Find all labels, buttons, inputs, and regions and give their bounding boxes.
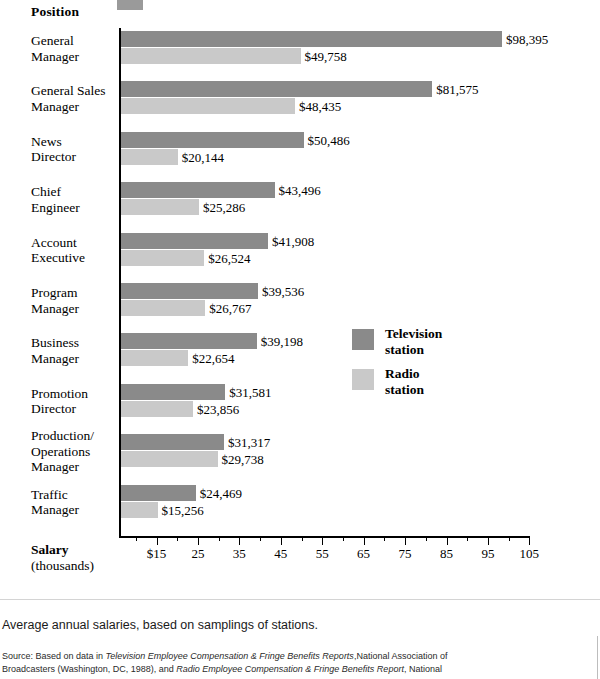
salary-axis-title: Salary (thousands) bbox=[31, 542, 94, 573]
bar-tv-0 bbox=[121, 31, 502, 47]
bar-radio-1 bbox=[121, 98, 295, 114]
x-tick-label-15: $15 bbox=[147, 546, 167, 562]
figure-caption: Average annual salaries, based on sampli… bbox=[2, 618, 318, 632]
bar-radio-3 bbox=[121, 199, 199, 215]
legend-label-television: Television station bbox=[385, 326, 442, 357]
category-label-8: Production/ Operations Manager bbox=[31, 428, 94, 475]
x-tick-minor-90 bbox=[467, 536, 468, 541]
x-tick-minor-80 bbox=[426, 536, 427, 541]
category-label-7: Promotion Director bbox=[31, 386, 88, 417]
x-tick-label-35: 35 bbox=[233, 546, 246, 562]
bar-radio-4 bbox=[121, 250, 204, 266]
x-tick-minor-100 bbox=[509, 536, 510, 541]
footer-divider bbox=[0, 599, 600, 600]
bar-value-tv-1: $81,575 bbox=[436, 82, 478, 98]
x-tick-minor-20 bbox=[177, 536, 178, 541]
x-axis-line bbox=[119, 536, 530, 538]
bar-value-radio-3: $25,286 bbox=[203, 200, 245, 216]
x-tick-minor-50 bbox=[302, 536, 303, 541]
legend-label-radio: Radio station bbox=[385, 366, 424, 397]
bar-value-tv-6: $39,198 bbox=[261, 334, 303, 350]
bar-value-tv-5: $39,536 bbox=[262, 284, 304, 300]
bar-value-tv-7: $31,581 bbox=[229, 385, 271, 401]
category-label-4: Account Executive bbox=[31, 235, 85, 266]
x-tick-label-25: 25 bbox=[191, 546, 204, 562]
source-prefix: Source: Based on data in bbox=[2, 651, 106, 661]
bar-value-tv-3: $43,496 bbox=[279, 183, 321, 199]
bar-value-tv-2: $50,486 bbox=[308, 133, 350, 149]
x-tick-label-95: 95 bbox=[481, 546, 494, 562]
x-tick-label-55: 55 bbox=[316, 546, 329, 562]
bar-chart: Position $152535455565758595105 General … bbox=[0, 0, 600, 590]
category-label-1: General Sales Manager bbox=[31, 83, 106, 114]
bar-tv-2 bbox=[121, 132, 304, 148]
bar-radio-9 bbox=[121, 502, 158, 518]
bar-tv-8 bbox=[121, 434, 224, 450]
page-right-edge bbox=[597, 636, 598, 679]
bar-value-tv-8: $31,317 bbox=[228, 435, 270, 451]
bar-value-radio-5: $26,767 bbox=[209, 301, 251, 317]
chart-page: Position $152535455565758595105 General … bbox=[0, 0, 600, 679]
x-tick-major-55 bbox=[322, 536, 323, 545]
bar-value-radio-1: $48,435 bbox=[299, 99, 341, 115]
category-label-9: Traffic Manager bbox=[31, 487, 79, 518]
x-tick-label-45: 45 bbox=[274, 546, 287, 562]
x-tick-major-35 bbox=[239, 536, 240, 545]
bar-tv-7 bbox=[121, 384, 225, 400]
x-tick-label-65: 65 bbox=[357, 546, 370, 562]
x-tick-major-95 bbox=[488, 536, 489, 545]
salary-axis-title-sub: (thousands) bbox=[31, 558, 94, 574]
position-axis-title: Position bbox=[31, 4, 79, 20]
bar-radio-0 bbox=[121, 48, 301, 64]
bar-tv-5 bbox=[121, 283, 258, 299]
bar-value-radio-8: $29,738 bbox=[222, 452, 264, 468]
bar-radio-7 bbox=[121, 401, 193, 417]
bar-radio-6 bbox=[121, 350, 188, 366]
bar-value-radio-7: $23,856 bbox=[197, 402, 239, 418]
x-tick-label-75: 75 bbox=[399, 546, 412, 562]
legend-swatch-radio-icon bbox=[352, 369, 374, 390]
bar-value-radio-6: $22,654 bbox=[192, 351, 234, 367]
bar-tv-1 bbox=[121, 81, 432, 97]
x-tick-major-85 bbox=[447, 536, 448, 545]
category-label-5: Program Manager bbox=[31, 285, 79, 316]
category-label-6: Business Manager bbox=[31, 335, 79, 366]
x-tick-minor-60 bbox=[343, 536, 344, 541]
source-title-radio: Radio Employee Compensation & Fringe Ben… bbox=[176, 664, 404, 674]
x-tick-minor-30 bbox=[219, 536, 220, 541]
x-tick-label-105: 105 bbox=[520, 546, 540, 562]
x-tick-major-45 bbox=[281, 536, 282, 545]
bar-value-radio-0: $49,758 bbox=[305, 49, 347, 65]
bar-value-tv-4: $41,908 bbox=[272, 234, 314, 250]
x-tick-major-65 bbox=[364, 536, 365, 545]
x-tick-major-105 bbox=[529, 536, 530, 545]
x-tick-label-85: 85 bbox=[440, 546, 453, 562]
bar-tv-6 bbox=[121, 333, 257, 349]
x-tick-minor-10 bbox=[136, 536, 137, 541]
x-tick-minor-40 bbox=[260, 536, 261, 541]
figure-source: Source: Based on data in Television Empl… bbox=[2, 650, 472, 675]
bar-radio-8 bbox=[121, 451, 218, 467]
bar-value-radio-9: $15,256 bbox=[162, 503, 204, 519]
category-label-2: News Director bbox=[31, 134, 76, 165]
bar-value-radio-4: $26,524 bbox=[208, 251, 250, 267]
x-tick-major-25 bbox=[198, 536, 199, 545]
bar-value-tv-0: $98,395 bbox=[506, 32, 548, 48]
category-label-3: Chief Engineer bbox=[31, 184, 80, 215]
legend-swatch-television-icon bbox=[352, 329, 374, 350]
source-mid-2: , National bbox=[404, 664, 442, 674]
bar-tv-9 bbox=[121, 485, 196, 501]
bar-tv-4 bbox=[121, 233, 268, 249]
x-tick-major-15 bbox=[157, 536, 158, 545]
bar-tv-3 bbox=[121, 182, 275, 198]
source-title-television: Television Employee Compensation & Fring… bbox=[106, 651, 354, 661]
bar-radio-5 bbox=[121, 300, 205, 316]
x-tick-major-75 bbox=[405, 536, 406, 545]
bar-value-radio-2: $20,144 bbox=[182, 150, 224, 166]
salary-axis-title-main: Salary bbox=[31, 542, 94, 558]
category-label-0: General Manager bbox=[31, 33, 79, 64]
bar-radio-2 bbox=[121, 149, 178, 165]
bar-value-tv-9: $24,469 bbox=[200, 486, 242, 502]
x-tick-minor-70 bbox=[384, 536, 385, 541]
